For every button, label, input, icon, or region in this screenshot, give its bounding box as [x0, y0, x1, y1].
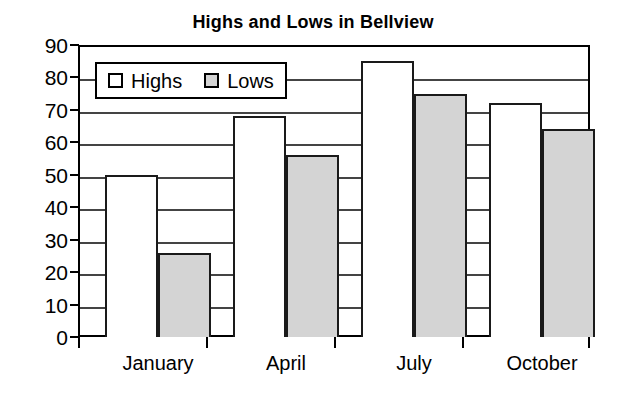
- y-axis-tick-label: 60: [24, 132, 68, 153]
- y-axis-tick-labels: 0102030405060708090: [10, 45, 68, 337]
- y-axis-tick-label: 20: [24, 262, 68, 283]
- x-axis-tick-label: October: [506, 352, 577, 374]
- y-axis-tick-label: 80: [24, 67, 68, 88]
- bar-lows-july: [414, 94, 467, 337]
- y-axis-tick-label: 40: [24, 197, 68, 218]
- legend-entry-highs: Highs: [108, 71, 182, 91]
- x-axis-tick-label: April: [266, 352, 306, 374]
- legend-swatch-highs-icon: [108, 73, 123, 88]
- x-axis-tick-mark: [588, 337, 590, 348]
- x-axis-tick-labels: JanuaryAprilJulyOctober: [78, 352, 590, 382]
- legend-entry-lows: Lows: [204, 71, 274, 91]
- bar-highs-january: [105, 175, 158, 337]
- bar-lows-october: [542, 129, 595, 337]
- x-axis-tick-mark: [206, 337, 208, 348]
- x-axis-tick-label: January: [122, 352, 193, 374]
- bar-chart: Highs and Lows in Bellview 0102030405060…: [0, 0, 626, 397]
- bar-lows-april: [286, 155, 339, 337]
- y-axis-tick-label: 10: [24, 294, 68, 315]
- x-axis-tick-marks: [78, 337, 590, 349]
- bar-highs-april: [233, 116, 286, 337]
- bar-lows-january: [158, 253, 211, 337]
- legend-swatch-lows-icon: [204, 73, 219, 88]
- bar-highs-october: [489, 103, 542, 337]
- y-axis-tick-label: 90: [24, 35, 68, 56]
- y-axis-tick-label: 70: [24, 99, 68, 120]
- y-axis-tick-label: 30: [24, 229, 68, 250]
- chart-legend: HighsLows: [95, 62, 287, 99]
- x-axis-tick-mark: [78, 337, 80, 348]
- y-axis-tick-label: 0: [24, 327, 68, 348]
- x-axis-tick-mark: [462, 337, 464, 348]
- legend-label: Lows: [227, 71, 274, 91]
- x-axis-tick-mark: [334, 337, 336, 348]
- x-axis-tick-label: July: [396, 352, 432, 374]
- bar-highs-july: [361, 61, 414, 337]
- chart-title: Highs and Lows in Bellview: [0, 12, 626, 33]
- y-axis-tick-label: 50: [24, 164, 68, 185]
- legend-label: Highs: [131, 71, 182, 91]
